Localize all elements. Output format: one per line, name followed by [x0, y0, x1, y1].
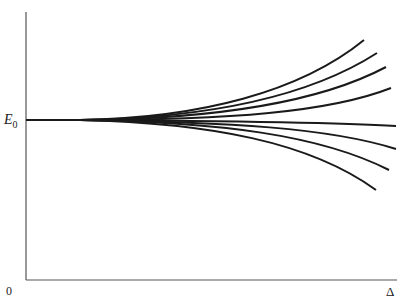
- curve-level-8: [26, 120, 376, 190]
- curve-level-2: [26, 53, 377, 120]
- origin-label: 0: [6, 284, 12, 299]
- energy-splitting-diagram: [0, 0, 408, 307]
- curves: [26, 40, 396, 190]
- curve-level-4: [26, 88, 391, 120]
- curve-level-7: [26, 120, 389, 170]
- delta-axis-label: Δ: [386, 284, 394, 300]
- e0-label: E0: [4, 112, 18, 130]
- curve-level-3: [26, 67, 386, 120]
